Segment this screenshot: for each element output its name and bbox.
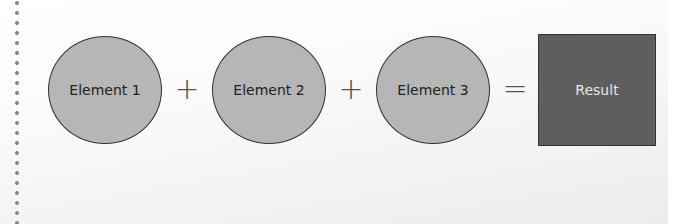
result-label: Result: [575, 82, 618, 98]
plus-operator-1: +: [172, 74, 202, 104]
plus-operator-2: +: [336, 74, 366, 104]
element-3-label: Element 3: [397, 82, 468, 98]
element-3-circle: Element 3: [376, 36, 490, 144]
dotted-border: [14, 0, 20, 224]
equals-operator: =: [500, 74, 530, 104]
element-1-label: Element 1: [69, 82, 140, 98]
element-1-circle: Element 1: [48, 36, 162, 144]
result-box: Result: [538, 34, 656, 146]
element-2-label: Element 2: [233, 82, 304, 98]
element-2-circle: Element 2: [212, 36, 326, 144]
